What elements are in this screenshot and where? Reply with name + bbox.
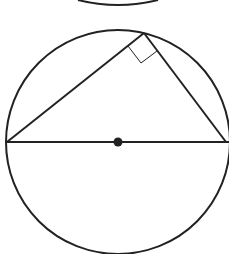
center-point bbox=[114, 138, 123, 147]
thales-diagram bbox=[0, 0, 229, 254]
triangle-left-side bbox=[7, 33, 144, 142]
triangle-right-side bbox=[144, 33, 226, 142]
partial-circle-arc-top bbox=[78, 0, 158, 5]
right-angle-marker bbox=[128, 46, 157, 63]
